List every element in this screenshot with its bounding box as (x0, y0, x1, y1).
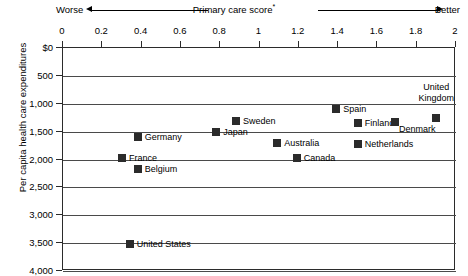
gridline (63, 132, 456, 133)
x-axis-title-text: Primary care score (193, 4, 273, 15)
data-point-marker[interactable] (391, 118, 399, 126)
gridline (63, 243, 456, 244)
x-axis-title-footnote-marker: * (272, 3, 275, 10)
data-point-label: Australia (284, 138, 319, 148)
y-axis-title: Per capita health care expenditures (17, 3, 28, 233)
data-point-label: UnitedKingdom (419, 82, 455, 104)
x-tick-label: 1 (256, 25, 261, 36)
data-point-marker[interactable] (118, 154, 126, 162)
data-point-label: Finland (365, 118, 395, 128)
data-point-marker[interactable] (432, 114, 440, 122)
data-point-label: Sweden (243, 116, 276, 126)
axis-direction-bar: Worse Primary care score* Better (0, 0, 468, 24)
better-direction-label: Better (435, 4, 460, 16)
x-tick-label: 2 (452, 25, 457, 36)
x-tick-label: 0.4 (134, 25, 147, 36)
data-point-label: Japan (223, 127, 248, 137)
y-tick-mark (56, 270, 62, 271)
data-point-marker[interactable] (126, 240, 134, 248)
data-point-label: Denmark (399, 124, 436, 134)
gridline (63, 215, 456, 216)
right-arrow-line (318, 10, 440, 11)
data-point-label: Netherlands (365, 139, 414, 149)
data-point-marker[interactable] (354, 119, 362, 127)
data-point-label: Canada (304, 153, 336, 163)
data-point-marker[interactable] (134, 133, 142, 141)
y-tick-label: 3,500 (0, 237, 53, 248)
data-point-marker[interactable] (232, 117, 240, 125)
data-point-marker[interactable] (273, 139, 281, 147)
x-tick-mark (455, 41, 456, 47)
x-tick-label: 0.8 (213, 25, 226, 36)
x-tick-label: 0.2 (95, 25, 108, 36)
data-point-label: Germany (145, 132, 182, 142)
x-tick-label: 1.6 (370, 25, 383, 36)
data-point-label: Spain (343, 104, 366, 114)
data-point-marker[interactable] (332, 105, 340, 113)
gridline (63, 271, 456, 272)
x-tick-label: 1.8 (409, 25, 422, 36)
data-point-label: United States (137, 239, 191, 249)
data-point-label: Belgium (145, 164, 178, 174)
x-tick-label: 1.2 (291, 25, 304, 36)
x-tick-label: 1.4 (330, 25, 343, 36)
data-point-label: France (129, 153, 157, 163)
data-point-marker[interactable] (134, 165, 142, 173)
data-point-marker[interactable] (354, 140, 362, 148)
primary-care-score-scatter-chart: Worse Primary care score* Better 00.20.4… (0, 0, 468, 276)
gridline (63, 76, 456, 77)
x-tick-label: 0 (59, 25, 64, 36)
y-tick-label: 4,000 (0, 265, 53, 276)
data-point-marker[interactable] (212, 128, 220, 136)
data-point-marker[interactable] (293, 154, 301, 162)
plot-area: United StatesFranceGermanyBelgiumJapanSw… (62, 47, 455, 270)
gridline (63, 104, 456, 105)
gridline (63, 187, 456, 188)
x-tick-label: 0.6 (173, 25, 186, 36)
